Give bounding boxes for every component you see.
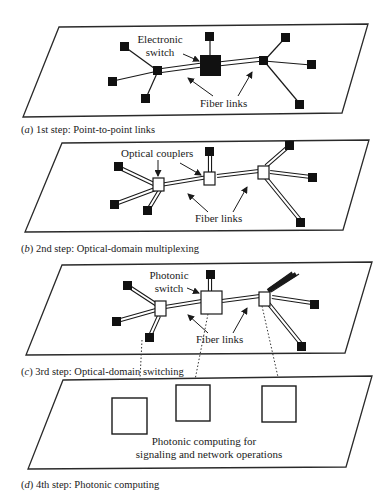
optical-coupler (204, 172, 215, 185)
terminal-node (310, 300, 319, 309)
optical-coupler (155, 301, 166, 316)
terminal-node (112, 317, 121, 326)
caption-b: (b) 2nd step: Optical-domain multiplexin… (21, 243, 200, 255)
label-photonic-switch-line1: Photonic (149, 269, 188, 281)
terminal-node (296, 218, 305, 227)
optical-coupler (258, 166, 269, 179)
terminal-node (145, 333, 154, 342)
label-electronic-switch-line1: Electronic (137, 33, 182, 45)
optical-coupler (259, 292, 270, 306)
terminal-node (295, 100, 304, 109)
electronic-switch (200, 55, 221, 76)
terminal-node (120, 42, 129, 51)
hub-node (153, 66, 162, 75)
terminal-node (143, 206, 152, 215)
photonic-evolution-diagram: Electronic switch Fiber links (a) 1st st… (0, 0, 390, 501)
caption-a: (a) 1st step: Point-to-point links (21, 124, 155, 136)
terminal-node (110, 200, 119, 209)
label-electronic-switch-line2: switch (146, 46, 175, 58)
terminal-node (297, 342, 306, 351)
terminal-node (308, 173, 317, 182)
terminal-node (307, 60, 316, 69)
terminal-node (108, 77, 117, 86)
panel-d: Photonic computing for signaling and net… (21, 376, 372, 491)
label-fiber-links-b: Fiber links (195, 212, 242, 224)
label-fiber-links-a: Fiber links (200, 97, 247, 109)
photonic-switch (201, 291, 222, 314)
terminal-node (123, 281, 132, 290)
optical-coupler (153, 178, 164, 191)
panel-b: Optical couplers Fiber links (b) 2nd ste… (21, 140, 369, 255)
label-photonic-switch-line2: switch (155, 282, 184, 294)
label-photonic-computing-line1: Photonic computing for (152, 435, 257, 447)
panel-c: Photonic switch Fiber links (c) 3rd step… (21, 262, 372, 378)
terminal-node (285, 141, 294, 150)
label-photonic-computing-line2: signaling and network operations (136, 448, 282, 460)
terminal-node (206, 270, 215, 279)
photonic-computing-unit (112, 398, 147, 434)
plane-a (23, 24, 368, 117)
photonic-computing-unit (262, 386, 296, 422)
terminal-node (205, 147, 214, 156)
caption-c: (c) 3rd step: Optical-domain switching (21, 366, 184, 378)
terminal-node (141, 94, 150, 103)
panel-a: Electronic switch Fiber links (a) 1st st… (21, 24, 368, 136)
caption-d: (d) 4th step: Photonic computing (21, 479, 160, 491)
terminal-node (205, 32, 214, 41)
photonic-computing-unit (176, 385, 210, 421)
terminal-node (281, 33, 290, 42)
hub-node (259, 56, 268, 65)
label-optical-couplers: Optical couplers (121, 147, 193, 159)
terminal-node (114, 162, 123, 171)
